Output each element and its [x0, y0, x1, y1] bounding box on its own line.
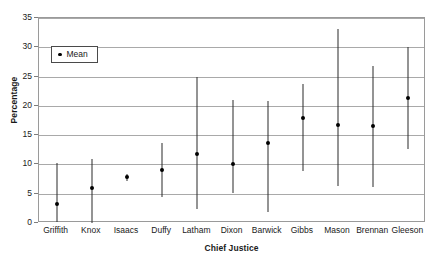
x-axis-tick-label: Gleeson: [392, 225, 424, 235]
chart-container: 35302520151050 Percentage Mean GriffithK…: [0, 0, 432, 261]
error-bar: [232, 100, 233, 193]
gridline: [39, 18, 424, 19]
mean-data-point: [301, 116, 305, 120]
mean-data-point: [160, 168, 164, 172]
error-bar: [197, 77, 198, 209]
mean-data-point: [266, 141, 270, 145]
x-axis-title: Chief Justice: [38, 243, 425, 253]
legend-item-label: Mean: [67, 50, 88, 59]
y-axis-title: Percentage: [9, 40, 19, 160]
x-axis-tick-label: Dixon: [221, 225, 243, 235]
y-axis-tickmark: [34, 222, 38, 223]
mean-data-point: [90, 186, 94, 190]
mean-data-point: [371, 124, 375, 128]
x-axis-tick-label: Mason: [324, 225, 350, 235]
error-bar: [302, 84, 303, 172]
gridline: [39, 77, 424, 78]
x-axis-tick-label: Duffy: [151, 225, 171, 235]
y-axis-tick-label: 35: [23, 13, 32, 22]
x-axis-tick-label: Gibbs: [291, 225, 313, 235]
gridline: [39, 194, 424, 195]
error-bar: [338, 29, 339, 187]
x-axis-tick-label: Latham: [182, 225, 210, 235]
mean-data-point: [195, 152, 199, 156]
error-bar: [56, 163, 57, 222]
clipped-title-strip: [0, 0, 432, 8]
legend[interactable]: Mean: [51, 46, 98, 63]
y-axis-tick-label: 0: [27, 218, 32, 227]
x-axis-tick-label: Knox: [81, 225, 100, 235]
mean-marker-icon: [58, 53, 62, 57]
x-axis-tick-label: Isaacs: [114, 225, 139, 235]
y-axis-tick-label: 30: [23, 42, 32, 51]
error-bar: [91, 159, 92, 223]
mean-data-point: [125, 175, 129, 179]
y-axis-tick-label: 15: [23, 130, 32, 139]
mean-data-point: [55, 202, 59, 206]
y-axis-tick-label: 10: [23, 159, 32, 168]
x-axis-tick-label: Brennan: [356, 225, 388, 235]
error-bar: [267, 101, 268, 212]
mean-data-point: [336, 123, 340, 127]
y-axis-tick-label: 20: [23, 101, 32, 110]
mean-data-point: [406, 96, 410, 100]
x-axis-tick-label: Griffith: [43, 225, 68, 235]
y-axis-tick-label: 5: [27, 188, 32, 197]
y-axis-tick-label: 25: [23, 71, 32, 80]
x-axis-tick-labels: GriffithKnoxIsaacsDuffyLathamDixonBarwic…: [38, 225, 425, 239]
x-axis-tick-label: Barwick: [252, 225, 282, 235]
mean-data-point: [231, 162, 235, 166]
